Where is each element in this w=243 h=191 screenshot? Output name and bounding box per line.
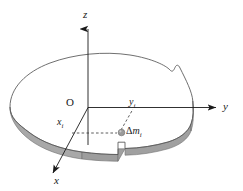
z-axis-label: z bbox=[83, 9, 87, 20]
y-coordinate-label: yi bbox=[129, 97, 135, 110]
mass-element-marker bbox=[118, 129, 125, 136]
y-coordinate-subscript: i bbox=[133, 102, 135, 110]
y-axis-label: y bbox=[223, 101, 228, 112]
x-axis-label: x bbox=[54, 175, 59, 186]
figure-canvas: z y x O yi xi Δmi bbox=[0, 0, 243, 191]
origin-label: O bbox=[66, 97, 74, 108]
mass-symbol: m bbox=[132, 125, 139, 136]
x-coordinate-label: xi bbox=[57, 117, 63, 130]
coordinate-system-diagram bbox=[0, 0, 243, 191]
x-coordinate-subscript: i bbox=[61, 122, 63, 130]
mass-element-label: Δmi bbox=[126, 126, 142, 139]
mass-element-subscript: i bbox=[140, 131, 142, 139]
